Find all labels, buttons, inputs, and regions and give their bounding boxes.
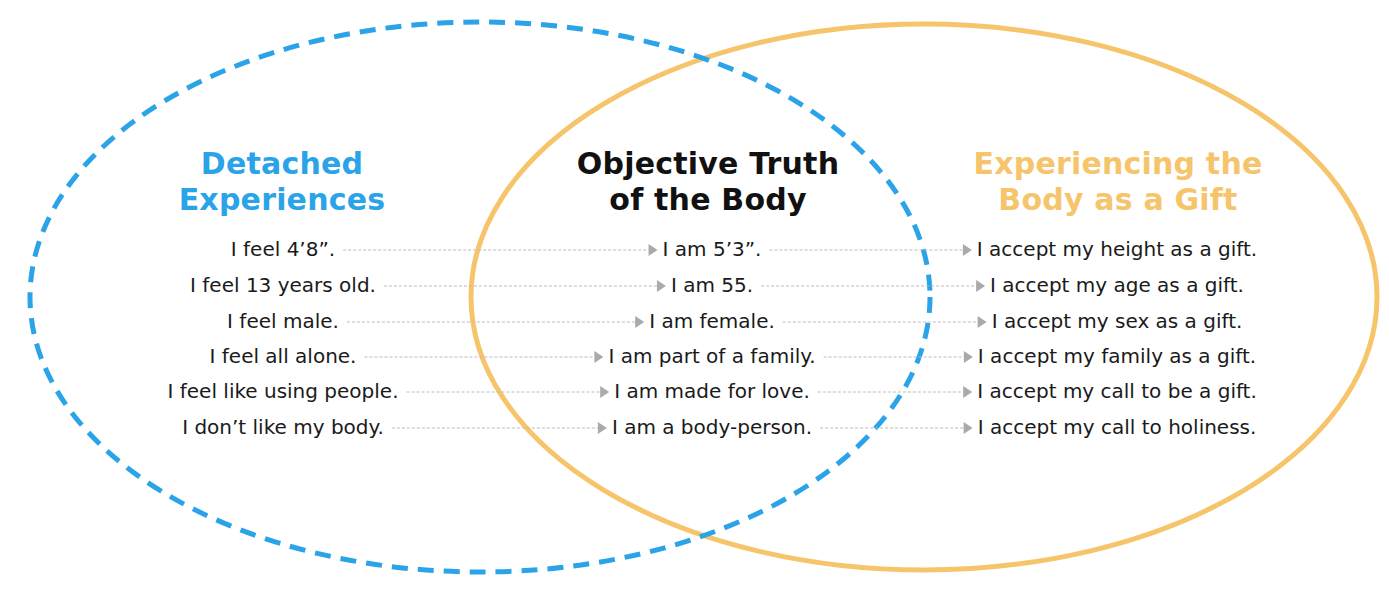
arrow-head-icon xyxy=(963,244,972,256)
detached-statement: I feel 13 years old. xyxy=(190,272,376,298)
objective-statement: I am a body-person. xyxy=(612,414,812,440)
arrow-head-icon xyxy=(964,351,973,363)
gift-statement: I accept my age as a gift. xyxy=(990,272,1244,298)
gift-statement: I accept my sex as a gift. xyxy=(992,308,1243,334)
arrow-head-icon xyxy=(635,316,644,328)
detached-statement: I feel 4’8”. xyxy=(231,236,335,262)
arrow-head-icon xyxy=(964,422,973,434)
arrow-head-icon xyxy=(649,244,658,256)
arrow-head-icon xyxy=(598,422,607,434)
gift-statement: I accept my call to holiness. xyxy=(978,414,1257,440)
objective-statement: I am 5’3”. xyxy=(663,236,762,262)
gift-statement: I accept my call to be a gift. xyxy=(977,378,1257,404)
arrow-head-icon xyxy=(657,280,666,292)
gift-title-line-1: Experiencing the xyxy=(973,146,1262,182)
detached-circle xyxy=(30,22,930,572)
arrow-head-icon xyxy=(963,386,972,398)
connector-lines xyxy=(343,244,986,434)
detached-title-line-1: Detached xyxy=(179,146,386,182)
gift-statement: I accept my height as a gift. xyxy=(977,236,1257,262)
detached-statement: I feel all alone. xyxy=(210,343,357,369)
objective-statement: I am made for love. xyxy=(614,378,810,404)
objective-statement: I am female. xyxy=(649,308,775,334)
objective-statement: I am part of a family. xyxy=(608,343,815,369)
detached-statement: I don’t like my body. xyxy=(182,414,384,440)
venn-diagram xyxy=(0,0,1389,611)
detached-title-line-2: Experiences xyxy=(179,182,386,218)
gift-title-line-2: Body as a Gift xyxy=(973,182,1262,218)
objective-statement: I am 55. xyxy=(671,272,753,298)
arrow-head-icon xyxy=(978,316,987,328)
gift-title: Experiencing the Body as a Gift xyxy=(973,146,1262,218)
arrow-head-icon xyxy=(600,386,609,398)
objective-title: Objective Truth of the Body xyxy=(577,146,839,218)
objective-title-line-1: Objective Truth xyxy=(577,146,839,182)
arrow-head-icon xyxy=(976,280,985,292)
gift-statement: I accept my family as a gift. xyxy=(978,343,1256,369)
detached-statement: I feel male. xyxy=(227,308,339,334)
detached-statement: I feel like using people. xyxy=(168,378,399,404)
objective-title-line-2: of the Body xyxy=(577,182,839,218)
detached-title: Detached Experiences xyxy=(179,146,386,218)
arrow-head-icon xyxy=(594,351,603,363)
